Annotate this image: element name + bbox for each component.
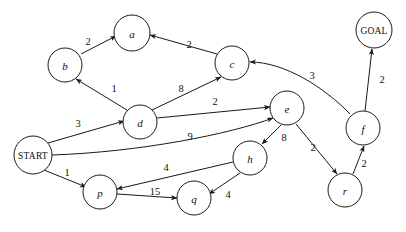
edge-weight-c-a: 2: [186, 39, 191, 50]
node-label-START: START: [18, 151, 48, 161]
node-label-r: r: [343, 185, 348, 197]
edge-d-to-b: [76, 79, 127, 110]
edge-e-to-h: [262, 125, 281, 144]
edge-d-to-c: [152, 77, 221, 110]
node-label-q: q: [191, 193, 197, 205]
edge-weight-START-d: 3: [75, 118, 80, 129]
node-START[interactable]: START: [14, 136, 52, 174]
node-label-d: d: [137, 117, 143, 129]
node-c[interactable]: c: [215, 46, 249, 80]
edge-p-to-q: [117, 194, 177, 198]
graph-svg: abcdefhpqrSTARTGOAL 22182391154482223: [0, 0, 406, 232]
node-q[interactable]: q: [177, 181, 211, 215]
edge-weight-p-q: 15: [150, 186, 161, 197]
node-a[interactable]: a: [114, 15, 150, 51]
diagram-canvas: abcdefhpqrSTARTGOAL 22182391154482223: [0, 0, 406, 232]
edge-weight-h-p: 4: [163, 162, 169, 173]
edge-weight-f-c: 3: [309, 70, 314, 81]
node-label-e: e: [285, 103, 290, 115]
node-label-p: p: [96, 187, 103, 199]
edge-e-to-r: [296, 124, 337, 174]
edge-weight-START-p: 1: [64, 167, 69, 178]
node-f[interactable]: f: [346, 111, 380, 145]
edge-d-to-e: [157, 107, 270, 118]
edge-weight-e-h: 8: [281, 132, 286, 143]
edge-weight-d-c: 8: [178, 83, 183, 94]
node-e[interactable]: e: [270, 91, 304, 125]
edge-f-to-GOAL: [365, 49, 372, 111]
node-label-a: a: [129, 28, 135, 40]
edge-weight-h-q: 4: [225, 189, 231, 200]
edge-weight-b-a: 2: [85, 36, 90, 47]
edge-weight-d-e: 2: [212, 96, 217, 107]
node-GOAL[interactable]: GOAL: [356, 12, 392, 48]
node-d[interactable]: d: [123, 105, 157, 139]
node-b[interactable]: b: [48, 48, 82, 82]
node-label-GOAL: GOAL: [360, 26, 387, 36]
edge-START-to-d: [48, 121, 124, 143]
node-label-h: h: [247, 153, 253, 165]
node-label-c: c: [230, 58, 235, 70]
node-r[interactable]: r: [328, 173, 362, 207]
edge-h-to-p: [117, 162, 233, 189]
edges-layer: [44, 35, 372, 198]
edge-weight-f-GOAL: 2: [379, 74, 384, 85]
edge-weight-e-r: 2: [310, 142, 315, 153]
edge-weight-r-f: 2: [361, 158, 366, 169]
edge-weight-START-e: 9: [187, 131, 192, 142]
edge-c-to-a: [150, 35, 217, 54]
edge-weight-d-b: 1: [111, 83, 116, 94]
node-h[interactable]: h: [233, 141, 267, 175]
node-label-b: b: [62, 60, 68, 72]
node-p[interactable]: p: [83, 175, 117, 209]
